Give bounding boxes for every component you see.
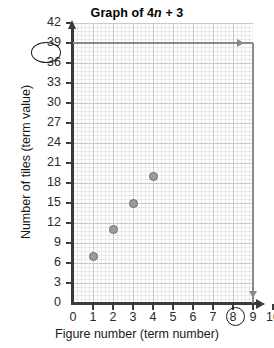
- reading-line-vertical-arrow-icon: [249, 291, 257, 298]
- reading-line-horizontal: [73, 42, 253, 43]
- reading-line-horizontal-arrow-icon: [237, 39, 244, 47]
- x-tick-label: 3: [122, 310, 144, 324]
- x-axis-arrow-icon: [256, 299, 265, 309]
- y-tick-mark: [66, 282, 72, 284]
- x-tick-label: 2: [102, 310, 124, 324]
- y-tick-mark: [66, 222, 72, 224]
- y-tick-label: 0: [17, 295, 61, 309]
- x-tick-label: 1: [82, 310, 104, 324]
- x-tick-label: 6: [182, 310, 204, 324]
- y-tick-mark: [66, 42, 72, 44]
- chart-title-variable: n: [154, 6, 162, 20]
- y-tick-mark: [66, 182, 72, 184]
- reading-line-vertical: [252, 43, 253, 303]
- data-point: [149, 172, 158, 181]
- chart-title-suffix: + 3: [162, 6, 184, 20]
- data-point: [109, 225, 118, 234]
- y-tick-mark: [66, 142, 72, 144]
- chart-title-prefix: Graph of 4: [91, 6, 155, 20]
- y-tick-mark: [66, 122, 72, 124]
- x-tick-label: 0: [62, 310, 84, 324]
- y-tick-label: 42: [17, 15, 61, 29]
- data-point: [89, 252, 98, 261]
- x-tick-label: 4: [142, 310, 164, 324]
- y-tick-mark: [66, 82, 72, 84]
- x-axis-line: [71, 302, 257, 305]
- plot-area: [73, 23, 253, 303]
- y-tick-mark: [66, 262, 72, 264]
- x-tick-label: 5: [162, 310, 184, 324]
- data-point: [129, 199, 138, 208]
- x-tick-label: 7: [202, 310, 224, 324]
- y-tick-mark: [66, 22, 72, 24]
- y-tick-mark: [66, 62, 72, 64]
- y-tick-mark: [66, 162, 72, 164]
- y-axis-title: Number of tiles (term value): [19, 52, 33, 272]
- y-tick-mark: [66, 242, 72, 244]
- y-highlight-circle: [31, 42, 61, 63]
- grid-major-lines: [73, 23, 253, 303]
- y-tick-mark: [66, 102, 72, 104]
- x-tick-label: 10: [262, 310, 274, 324]
- x-axis-title: Figure number (term number): [0, 327, 274, 341]
- y-tick-label: 3: [17, 275, 61, 289]
- x-tick-label: 9: [242, 310, 264, 324]
- chart-figure: Graph of 4n + 3 036912151821242730333639…: [0, 0, 274, 348]
- y-tick-mark: [66, 202, 72, 204]
- x-highlight-circle: [226, 307, 245, 326]
